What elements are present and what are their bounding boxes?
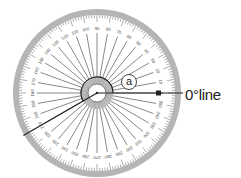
scale-number: 270 bbox=[93, 155, 101, 160]
zero-marker bbox=[156, 91, 161, 96]
scale-number: 180 bbox=[30, 89, 35, 97]
zero-line-label: 0°line bbox=[185, 86, 221, 103]
angle-a-label: a bbox=[121, 74, 137, 90]
center-point bbox=[96, 92, 98, 94]
scale-number: 90 bbox=[95, 26, 100, 31]
protractor-diagram: 0102030405060708090100110120130140150160… bbox=[0, 0, 241, 178]
